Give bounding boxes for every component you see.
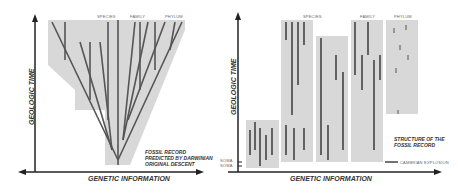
caption-line: FOSSIL RECORD	[394, 142, 445, 148]
x-axis-label: GENETIC INFORMATION	[88, 175, 170, 182]
caption: STRUCTURE OF THE FOSSIL RECORD	[394, 136, 445, 148]
y-axis-label: GEOLOGIC TIME	[28, 69, 35, 125]
column-label-species: SPECIES	[97, 14, 116, 19]
y-axis-label: GEOLOGIC TIME	[230, 59, 237, 115]
x-axis-label: GENETIC INFORMATION	[290, 175, 372, 182]
column-label-phylum: PHYLUM	[394, 14, 412, 19]
caption: FOSSIL RECORD PREDICTED BY DARWINIAN ORI…	[145, 149, 213, 167]
caption-line: ORIGINAL DESCENT	[145, 161, 213, 167]
right-diagram-fossil-record: GEOLOGIC TIME GENETIC INFORMATION SPECIE…	[228, 0, 458, 193]
column-label-family: FAMILY	[360, 14, 375, 19]
column-label-species: SPECIES	[303, 14, 322, 19]
tick-label: SOMA	[220, 163, 233, 168]
column-label-family: FAMILY	[130, 14, 145, 19]
legend-cambrian-explosion: CAMBRIAN EXPLOSION	[400, 160, 449, 165]
column-label-phylum: PHYLUM	[165, 14, 183, 19]
left-diagram-darwinian: GEOLOGIC TIME GENETIC INFORMATION SPECIE…	[0, 0, 228, 193]
